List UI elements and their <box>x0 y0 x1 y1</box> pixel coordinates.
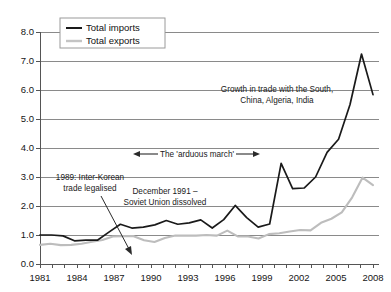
x-tick-2005: 2005 <box>325 272 346 283</box>
x-tick-1996: 1996 <box>214 272 235 283</box>
annotation-arduous-march: The 'arduous march' <box>133 150 260 159</box>
series-line-total-imports <box>40 54 373 241</box>
annotation-inter-korean: 1989: Inter-Korean trade legalised <box>56 173 132 255</box>
x-tick-1987: 1987 <box>103 272 124 283</box>
x-tick-1981: 1981 <box>29 272 50 283</box>
y-tick-5: 5.0 <box>21 113 34 124</box>
y-tick-8: 8.0 <box>21 26 34 37</box>
x-tick-1993: 1993 <box>177 272 198 283</box>
y-tick-7: 7.0 <box>21 55 34 66</box>
x-tick-2008: 2008 <box>362 272 383 283</box>
legend-label-imports: Total imports <box>86 22 140 33</box>
y-tick-3: 3.0 <box>21 171 34 182</box>
legend: Total imports Total exports <box>60 18 165 48</box>
y-tickmarks <box>36 32 40 264</box>
annotation-inter-korean-arrowhead-icon <box>125 246 132 255</box>
y-tick-4: 4.0 <box>21 142 34 153</box>
x-tick-1999: 1999 <box>251 272 272 283</box>
annotation-soviet-union: December 1991 – Soviet Union dissolved <box>124 187 207 207</box>
y-tick-0: 0.0 <box>21 258 34 269</box>
annotation-growth-south-line2: China, Algeria, India <box>240 96 314 105</box>
legend-label-exports: Total exports <box>86 35 140 46</box>
gridlines <box>40 32 379 235</box>
annotation-soviet-union-line2: Soviet Union dissolved <box>124 198 207 207</box>
annotation-inter-korean-line1: 1989: Inter-Korean <box>56 173 125 182</box>
annotation-growth-south-line1: Growth in trade with the South, <box>221 85 333 94</box>
x-tick-2002: 2002 <box>288 272 309 283</box>
x-tickmarks <box>40 264 373 268</box>
arrow-right-head-icon <box>253 151 260 157</box>
y-tick-1: 1.0 <box>21 229 34 240</box>
annotation-inter-korean-line2: trade legalised <box>63 184 117 193</box>
chart-canvas: 8.0 7.0 6.0 5.0 4.0 3.0 2.0 1.0 0.0 <box>0 0 391 292</box>
y-tick-6: 6.0 <box>21 84 34 95</box>
trade-line-chart: 8.0 7.0 6.0 5.0 4.0 3.0 2.0 1.0 0.0 <box>0 0 391 292</box>
arrow-left-head-icon <box>133 151 140 157</box>
x-tick-1990: 1990 <box>140 272 161 283</box>
x-tick-1984: 1984 <box>66 272 87 283</box>
y-tick-labels: 8.0 7.0 6.0 5.0 4.0 3.0 2.0 1.0 0.0 <box>21 26 34 269</box>
y-tick-2: 2.0 <box>21 200 34 211</box>
x-tick-labels: 1981 1984 1987 1990 1993 1996 1999 2002 … <box>29 272 383 283</box>
annotation-arduous-march-label: The 'arduous march' <box>160 150 235 159</box>
annotation-growth-south: Growth in trade with the South, China, A… <box>221 85 333 105</box>
annotation-soviet-union-line1: December 1991 – <box>132 187 198 196</box>
